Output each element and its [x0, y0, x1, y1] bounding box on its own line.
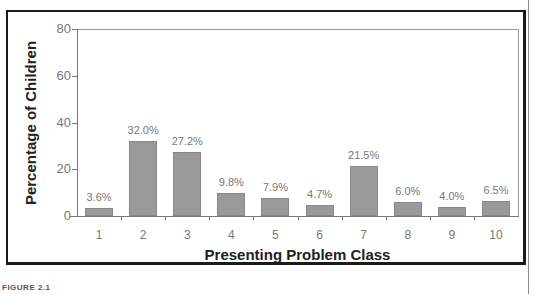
- figure-caption: FIGURE 2.1: [2, 283, 51, 292]
- y-tick: [72, 216, 77, 217]
- bar: [85, 208, 113, 216]
- y-tick-label: 40: [57, 116, 71, 129]
- y-axis: [77, 29, 78, 217]
- y-tick-label: 80: [57, 22, 71, 35]
- bar: [394, 202, 422, 216]
- y-tick-label: 60: [57, 69, 71, 82]
- x-tick: [165, 216, 166, 220]
- bar: [350, 166, 378, 216]
- y-tick-label: 0: [64, 209, 71, 222]
- x-tick-label: 2: [128, 228, 158, 242]
- y-tick: [72, 123, 77, 124]
- bar-value-label: 4.7%: [295, 188, 345, 200]
- bar-value-label: 27.2%: [162, 135, 212, 147]
- x-tick: [342, 216, 343, 220]
- bar: [306, 205, 334, 216]
- x-tick-label: 5: [260, 228, 290, 242]
- y-tick: [72, 76, 77, 77]
- x-tick-label: 8: [393, 228, 423, 242]
- bar-value-label: 4.0%: [427, 190, 477, 202]
- x-tick-label: 10: [481, 228, 511, 242]
- y-tick: [72, 169, 77, 170]
- bar: [482, 201, 510, 216]
- bar: [129, 141, 157, 216]
- x-tick: [253, 216, 254, 220]
- bar-value-label: 9.8%: [206, 176, 256, 188]
- bar: [217, 193, 245, 216]
- x-tick-label: 9: [437, 228, 467, 242]
- bar-value-label: 32.0%: [118, 124, 168, 136]
- y-axis-title: Percentage of Children: [22, 41, 39, 205]
- x-tick: [298, 216, 299, 220]
- x-tick: [430, 216, 431, 220]
- x-tick-label: 6: [305, 228, 335, 242]
- bar-value-label: 21.5%: [339, 149, 389, 161]
- x-tick: [121, 216, 122, 220]
- x-tick: [209, 216, 210, 220]
- bar-value-label: 7.9%: [250, 181, 300, 193]
- y-tick-label: 20: [57, 162, 71, 175]
- x-tick-label: 3: [172, 228, 202, 242]
- bar-value-label: 6.0%: [383, 185, 433, 197]
- x-tick-label: 1: [84, 228, 114, 242]
- bar: [438, 207, 466, 216]
- x-tick: [386, 216, 387, 220]
- bar-value-label: 6.5%: [471, 184, 521, 196]
- y-tick: [72, 29, 77, 30]
- x-tick: [474, 216, 475, 220]
- x-tick-label: 4: [216, 228, 246, 242]
- page-edge: [528, 0, 529, 294]
- bar: [261, 198, 289, 216]
- bar-value-label: 3.6%: [74, 191, 124, 203]
- bar: [173, 152, 201, 216]
- x-axis-title: Presenting Problem Class: [77, 246, 518, 263]
- x-axis: [70, 216, 519, 217]
- x-tick-label: 7: [349, 228, 379, 242]
